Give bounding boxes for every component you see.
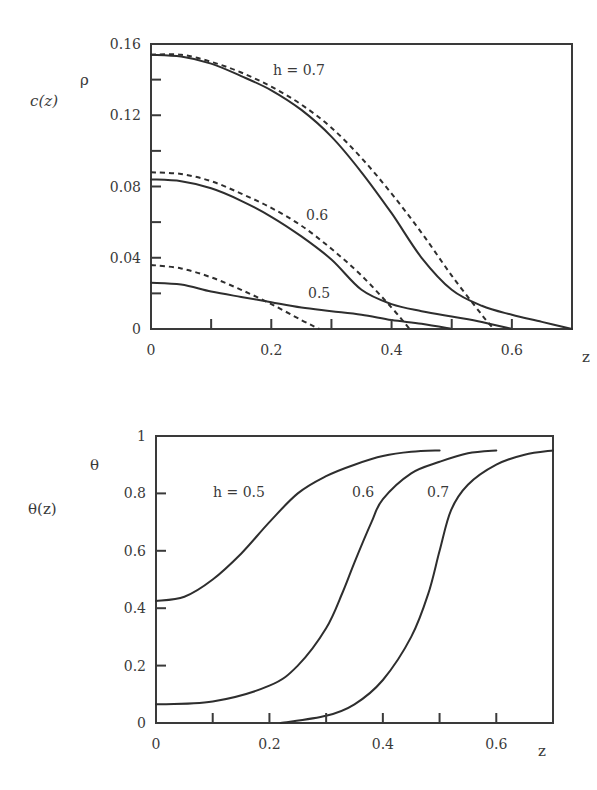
bottom-label-h06: 0.6 bbox=[352, 484, 374, 500]
top-x-axis-title: z bbox=[582, 348, 590, 366]
bottom-label-h07: 0.7 bbox=[427, 484, 449, 500]
y-tick-label: 0.16 bbox=[110, 36, 141, 52]
y-tick-label: 0.8 bbox=[124, 485, 146, 501]
y-tick-label: 0.08 bbox=[110, 179, 141, 195]
curve-h-0-5-solid bbox=[151, 283, 452, 329]
y-tick-label: 0.6 bbox=[124, 543, 146, 559]
figure: 00.20.40.600.040.080.120.16 c(z) ρ z h =… bbox=[0, 0, 597, 790]
x-tick-label: 0 bbox=[147, 342, 156, 358]
concentration-plot: 00.20.40.600.040.080.120.16 c(z) ρ z h =… bbox=[30, 36, 590, 366]
bottom-label-h05: h = 0.5 bbox=[213, 484, 265, 500]
top-plot-frame bbox=[151, 44, 572, 329]
x-tick-label: 0.4 bbox=[372, 736, 394, 752]
curve-h-0-6-solid bbox=[151, 179, 512, 329]
top-label-h06: 0.6 bbox=[306, 207, 328, 223]
top-label-h05: 0.5 bbox=[308, 285, 330, 301]
bottom-y-axis-symbol: θ bbox=[90, 456, 99, 474]
bottom-plot-frame bbox=[156, 436, 553, 723]
curve-h-0-7-solid bbox=[151, 55, 572, 329]
x-tick-label: 0.6 bbox=[501, 342, 523, 358]
x-tick-label: 0.4 bbox=[380, 342, 402, 358]
curve-h-0-6-dashed bbox=[151, 172, 410, 329]
curve-h-0-5 bbox=[156, 450, 440, 601]
bottom-x-axis-title: z bbox=[538, 742, 546, 760]
x-tick-label: 0 bbox=[152, 736, 161, 752]
y-tick-label: 0.2 bbox=[124, 658, 146, 674]
curve-h-0-7 bbox=[281, 450, 553, 723]
y-tick-label: 0 bbox=[132, 321, 141, 337]
curve-h-0-5-dashed bbox=[151, 265, 319, 329]
y-tick-label: 0.4 bbox=[124, 600, 146, 616]
y-tick-label: 0 bbox=[137, 715, 146, 731]
top-plot-curves bbox=[151, 54, 572, 329]
x-tick-label: 0.2 bbox=[258, 736, 280, 752]
y-tick-label: 0.04 bbox=[110, 250, 141, 266]
top-y-axis-title: c(z) bbox=[30, 92, 58, 110]
top-y-axis-symbol: ρ bbox=[80, 71, 89, 89]
x-tick-label: 0.6 bbox=[485, 736, 507, 752]
bottom-y-axis-title: θ(z) bbox=[28, 500, 57, 518]
top-label-h07: h = 0.7 bbox=[273, 62, 325, 78]
y-tick-label: 1 bbox=[137, 428, 146, 444]
theta-plot: 00.20.40.600.20.40.60.81 θ(z) θ z h = 0.… bbox=[28, 428, 553, 760]
x-tick-label: 0.2 bbox=[260, 342, 282, 358]
y-tick-label: 0.12 bbox=[110, 107, 141, 123]
